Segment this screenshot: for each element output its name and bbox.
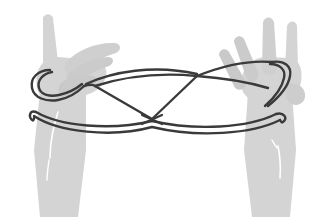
illustration-canvas: Cat's Cradle string figure held between … <box>0 0 320 217</box>
left-hand-forearm <box>34 92 86 217</box>
string-diagonal-left <box>95 86 152 119</box>
cats-cradle-illustration: Cat's Cradle string figure held between … <box>0 0 320 217</box>
right-hand <box>219 18 305 218</box>
left-hand <box>34 14 120 217</box>
right-hand-middle-finger <box>262 18 277 76</box>
string-center-crossing <box>142 115 162 124</box>
string-over-hand-accents <box>84 85 95 86</box>
string-across-left-knuckles <box>84 85 95 86</box>
string-diagonal-right <box>152 76 197 119</box>
right-hand-index-finger <box>285 22 298 78</box>
right-hand-forearm <box>244 92 296 217</box>
left-hand-index-finger <box>43 14 58 69</box>
